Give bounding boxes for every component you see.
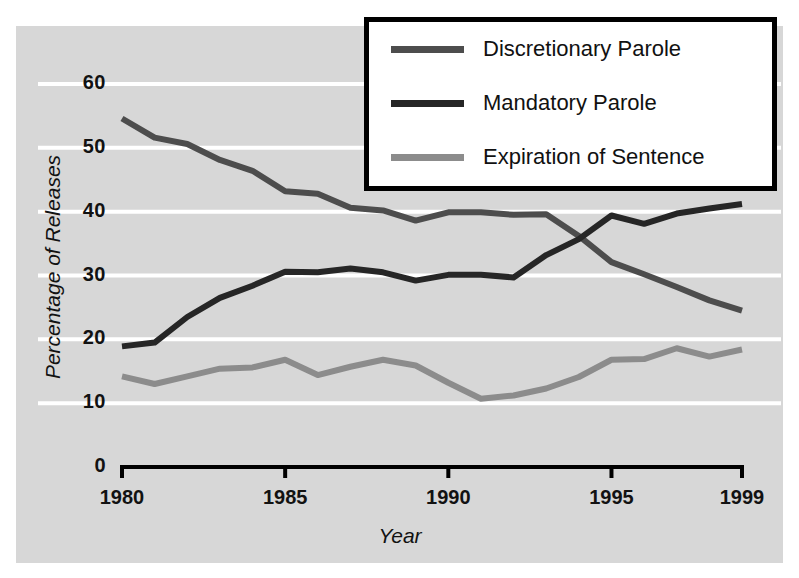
y-axis-tick-label: 60 (62, 71, 106, 94)
x-axis-tick-label: 1999 (702, 486, 782, 509)
x-axis-tick-label: 1985 (245, 486, 325, 509)
y-axis-title: Percentage of Releases (41, 152, 65, 382)
axis-lines (122, 467, 742, 478)
legend-line-icon (391, 100, 464, 107)
legend-item-mandatory-parole: Mandatory Parole (369, 76, 772, 130)
y-axis-tick-label: 10 (62, 390, 106, 413)
legend-item-discretionary-parole: Discretionary Parole (369, 22, 772, 76)
series-line (122, 348, 742, 398)
y-axis-tick-label: 30 (62, 263, 106, 286)
legend-item-expiration-of-sentence: Expiration of Sentence (369, 130, 772, 184)
y-axis-tick-label: 20 (62, 326, 106, 349)
y-axis-tick-label: 0 (62, 454, 106, 477)
x-axis-tick-label: 1995 (571, 486, 651, 509)
legend-item-label: Discretionary Parole (483, 36, 681, 62)
x-axis-title: Year (300, 524, 500, 548)
x-axis (122, 467, 742, 478)
legend-item-label: Expiration of Sentence (483, 144, 704, 170)
legend-line-icon (391, 46, 464, 53)
legend-item-label: Mandatory Parole (483, 90, 657, 116)
legend: Discretionary Parole Mandatory Parole Ex… (364, 17, 777, 191)
y-axis-tick-label: 50 (62, 135, 106, 158)
y-axis-tick-label: 40 (62, 199, 106, 222)
chart-figure: 6050403020100 19801985199019951999 Perce… (0, 0, 799, 578)
x-axis-tick-label: 1990 (408, 486, 488, 509)
legend-line-icon (391, 154, 464, 161)
x-axis-tick-label: 1980 (82, 486, 162, 509)
